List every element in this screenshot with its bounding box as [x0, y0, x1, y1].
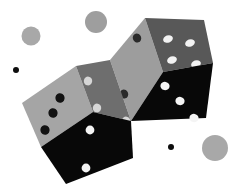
bokeh-circle-bottom-right: [202, 135, 228, 161]
lower-left-die-front-face-pip-1: [86, 126, 95, 135]
bokeh-circle-top-left: [22, 27, 41, 46]
dice-illustration-canvas: Two tumbling dice illustration: [0, 0, 240, 192]
lower-left-die-front-face-pip-2: [82, 164, 91, 173]
dot-small-bottom: [168, 144, 174, 150]
dot-small-left: [13, 67, 19, 73]
bokeh-circle-top-center: [85, 11, 107, 33]
dice-scene-svg: [0, 0, 240, 192]
